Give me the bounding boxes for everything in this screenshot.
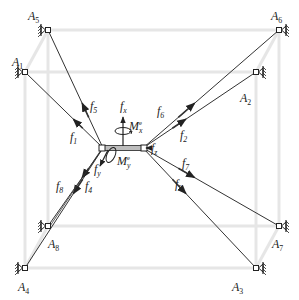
cable-f6 (143, 30, 279, 148)
label-a1: A1 (11, 55, 23, 71)
cable-f5 (48, 30, 103, 148)
label-fz: fz (151, 141, 157, 157)
support-triangle-icon (18, 264, 23, 272)
label-my: Mey (116, 154, 131, 170)
frame-edge (25, 226, 48, 268)
left-node (99, 145, 105, 151)
frame-edge (25, 30, 48, 72)
cable-f4 (25, 148, 103, 268)
label-fx: fx (120, 99, 127, 115)
label-a7: A7 (271, 237, 283, 253)
platform-bar (103, 146, 143, 151)
label-f7: f7 (182, 156, 190, 172)
label-mx: Mex (128, 119, 143, 135)
label-a6: A6 (270, 9, 282, 25)
fy-arrow (100, 150, 108, 166)
cable-f3 (143, 148, 256, 268)
cable-f7 (143, 148, 279, 226)
label-a5: A5 (27, 9, 39, 25)
support-triangle-icon (282, 26, 287, 34)
robot-force-diagram: A1A2A3A4A5A6A7A8f1f2f3f4f5f6f7f8fxfzfyMe… (0, 0, 299, 300)
label-f1: f1 (70, 130, 77, 146)
label-a4: A4 (17, 280, 29, 296)
label-a8: A8 (47, 237, 59, 253)
frame-edge (256, 30, 279, 72)
force-arrow-f5 (82, 103, 89, 117)
label-a3: A3 (231, 280, 243, 296)
label-f3: f3 (175, 177, 182, 193)
label-f2: f2 (180, 128, 187, 144)
label-f5: f5 (90, 99, 97, 115)
label-a2: A2 (239, 91, 251, 107)
label-f6: f6 (157, 104, 164, 120)
force-arrow-f1 (73, 119, 82, 128)
diagram-canvas: A1A2A3A4A5A6A7A8f1f2f3f4f5f6f7f8fxfzfyMe… (0, 0, 299, 300)
force-arrow-f4 (73, 179, 82, 193)
support-triangle-icon (282, 222, 287, 230)
label-f4: f4 (85, 179, 92, 195)
label-f8: f8 (56, 179, 63, 195)
